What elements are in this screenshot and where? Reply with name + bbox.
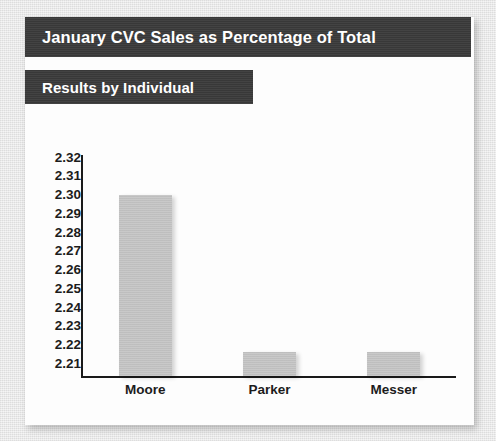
y-axis-tick: 2.32 <box>55 151 81 164</box>
y-axis-tick: 2.27 <box>55 245 81 258</box>
slide-title: January CVC Sales as Percentage of Total <box>42 28 376 47</box>
y-axis-tick: 2.25 <box>55 282 81 295</box>
bar-slot <box>243 155 296 376</box>
bar-messer <box>367 352 420 376</box>
y-axis-tick: 2.21 <box>55 357 81 370</box>
y-axis-tick: 2.31 <box>55 170 81 183</box>
bar-chart: 2.32 2.31 2.30 2.29 2.28 2.27 2.26 2.25 … <box>25 127 474 417</box>
y-axis-tick: 2.26 <box>55 263 81 276</box>
y-axis-tick: 2.28 <box>55 226 81 239</box>
x-axis-tick: Moore <box>83 382 207 397</box>
bar-slot <box>367 155 420 376</box>
x-axis-tick: Messer <box>332 382 456 397</box>
bar-moore <box>119 195 172 376</box>
x-axis-line <box>81 376 456 378</box>
y-axis-tick-labels: 2.32 2.31 2.30 2.29 2.28 2.27 2.26 2.25 … <box>33 151 81 370</box>
y-axis-tick: 2.22 <box>55 338 81 351</box>
plot-area <box>83 155 456 376</box>
x-axis-tick-labels: Moore Parker Messer <box>83 382 456 406</box>
bar-slot <box>119 155 172 376</box>
slide-subtitle-bar: Results by Individual <box>25 70 253 104</box>
y-axis-tick: 2.29 <box>55 207 81 220</box>
y-axis-tick: 2.30 <box>55 188 81 201</box>
slide-subtitle: Results by Individual <box>42 79 194 96</box>
x-axis-tick: Parker <box>207 382 331 397</box>
slide-card: January CVC Sales as Percentage of Total… <box>25 17 474 425</box>
y-axis-tick: 2.24 <box>55 301 81 314</box>
y-axis-tick: 2.23 <box>55 319 81 332</box>
bar-parker <box>243 352 296 376</box>
slide-title-bar: January CVC Sales as Percentage of Total <box>25 17 471 57</box>
